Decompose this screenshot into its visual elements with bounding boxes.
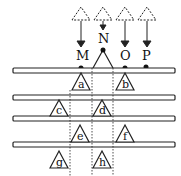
label-m: M — [76, 48, 89, 63]
triangle-labels: ab cd ef gh — [56, 78, 129, 169]
svg-text:e: e — [77, 130, 84, 143]
label-o: O — [120, 48, 131, 63]
svg-text:b: b — [122, 78, 129, 91]
pivot-n — [93, 50, 113, 68]
svg-text:c: c — [56, 104, 62, 117]
bars — [13, 68, 175, 147]
lever-diagram: M N O P ab cd ef gh — [0, 0, 181, 176]
svg-text:g: g — [56, 156, 63, 169]
svg-text:a: a — [78, 78, 85, 91]
arrows — [77, 21, 151, 47]
label-n: N — [98, 31, 109, 46]
label-p: P — [142, 48, 151, 63]
dashed-triangles — [72, 7, 156, 20]
svg-text:h: h — [99, 156, 106, 169]
svg-text:d: d — [99, 104, 106, 117]
